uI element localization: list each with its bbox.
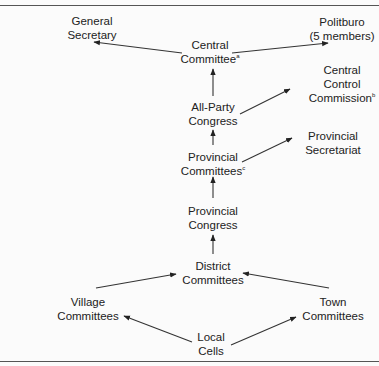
edge-cells-to-tc: [231, 317, 296, 345]
node-all-party-congress: All-Party Congress: [188, 100, 237, 128]
edge-cells-to-vc: [124, 316, 192, 342]
footnote-c: c: [242, 165, 245, 171]
node-district-committees: District Committees: [182, 259, 243, 287]
node-provincial-committees: Provincial Committeesc: [181, 150, 245, 178]
edge-pcom-to-psec: [242, 138, 292, 162]
node-provincial-congress: Provincial Congress: [188, 204, 238, 232]
node-village-committees: Village Committees: [57, 295, 118, 323]
node-central-committee: Central Committeea: [181, 38, 240, 66]
edge-cc-to-politburo: [232, 43, 328, 53]
node-local-cells: Local Cells: [197, 330, 225, 358]
footnote-a: a: [236, 53, 239, 59]
edge-apc-to-ccc: [240, 89, 290, 114]
edge-vc-to-dc: [96, 274, 176, 288]
node-central-control-commission: Central Control Commissionb: [309, 63, 376, 105]
node-town-committees: Town Committees: [302, 295, 363, 323]
node-general-secretary: General Secretary: [67, 14, 116, 42]
node-provincial-secretariat: Provincial Secretariat: [305, 129, 361, 157]
footnote-b: b: [372, 92, 375, 98]
node-politburo: Politburo (5 members): [309, 15, 374, 43]
edge-cc-to-gensec: [94, 42, 182, 53]
edge-tc-to-dc: [243, 273, 329, 288]
